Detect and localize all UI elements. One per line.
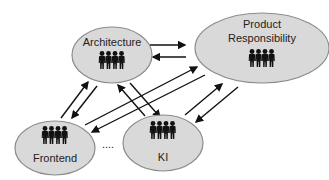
arrow-frontend-to-architecture [61, 82, 88, 118]
node-frontend: Frontend [15, 121, 95, 175]
node-product-responsibility: Product Responsibility [195, 13, 329, 83]
arrow-architecture-to-frontend [72, 86, 97, 118]
architecture-label: Architecture [83, 36, 142, 48]
team-interaction-diagram: Architecture Product Responsibility Fron… [0, 0, 329, 180]
ki-label: KI [158, 151, 168, 163]
product-responsibility-label-line1: Product [243, 18, 281, 30]
more-teams-ellipsis: .... [102, 138, 114, 150]
product-responsibility-label-line2: Responsibility [228, 32, 296, 44]
frontend-ellipse [15, 121, 95, 175]
arrow-ki-to-product-responsibility [185, 84, 222, 115]
node-architecture: Architecture [72, 27, 152, 83]
arrow-product-responsibility-to-ki [196, 87, 238, 122]
frontend-label: Frontend [33, 152, 77, 164]
node-ki: KI [123, 115, 203, 171]
